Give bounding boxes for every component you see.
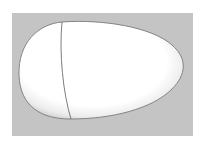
- egg-render: [12, 13, 193, 136]
- render-viewport: [12, 13, 193, 136]
